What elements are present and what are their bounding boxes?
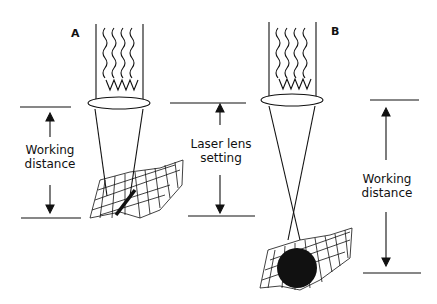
working-distance-label-a: Working distance [18, 143, 82, 171]
label-line: setting [186, 151, 256, 165]
panel-label-b: B [331, 25, 339, 38]
panel-label-a: A [71, 27, 80, 40]
label-line: Working [18, 143, 82, 157]
laser-tube-b [261, 22, 323, 240]
laser-focus-diagram: A B Working distance Laser lens setting … [0, 0, 437, 304]
label-line: Laser lens [186, 137, 256, 151]
label-line: distance [355, 186, 419, 200]
label-line: Working [355, 172, 419, 186]
treatment-spot-b [277, 248, 317, 288]
tissue-a [90, 160, 183, 218]
label-line: distance [18, 157, 82, 171]
working-distance-label-b: Working distance [355, 172, 419, 200]
laser-lens-setting-label: Laser lens setting [186, 137, 256, 165]
